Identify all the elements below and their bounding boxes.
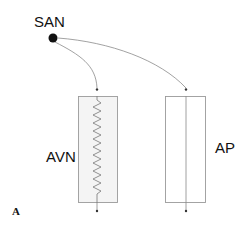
pathway-diagram: SAN AVN AP A — [0, 0, 251, 231]
avn-label: AVN — [46, 148, 76, 165]
avn-exit-arrowhead — [96, 210, 98, 212]
panel-label: A — [12, 205, 20, 217]
san-to-avn-connector — [55, 42, 97, 88]
ap-label: AP — [215, 139, 235, 156]
ap-exit-arrowhead — [185, 210, 187, 212]
san-to-ap-connector — [58, 38, 186, 88]
ap-box — [166, 97, 206, 203]
ap-entry-arrowhead — [185, 88, 187, 90]
san-label: SAN — [34, 13, 65, 30]
san-node — [49, 34, 58, 43]
avn-entry-arrowhead — [96, 88, 98, 90]
